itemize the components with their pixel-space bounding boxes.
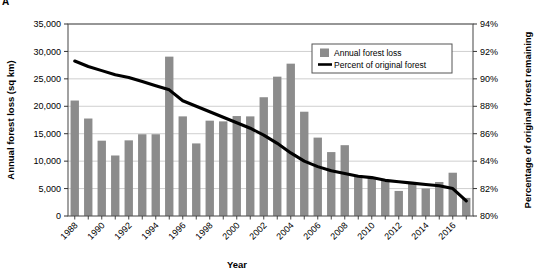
- bar: [84, 119, 92, 216]
- bar: [368, 178, 376, 216]
- bar: [179, 116, 187, 216]
- x-tick-label: 1992: [112, 220, 133, 241]
- bar: [125, 140, 133, 216]
- y2-tick-label: 80%: [480, 211, 498, 221]
- x-tick-label: 1990: [85, 220, 106, 241]
- x-tick-label: 1998: [193, 220, 214, 241]
- x-axis-title: Year: [227, 259, 247, 270]
- x-tick-label: 2000: [220, 220, 241, 241]
- x-tick-label: 2008: [328, 220, 349, 241]
- bar: [449, 173, 457, 216]
- legend-label-bar: Annual forest loss: [334, 48, 402, 58]
- y2-tick-label: 86%: [480, 129, 498, 139]
- bar: [260, 97, 268, 216]
- y-tick-label: 0: [56, 211, 61, 221]
- x-tick-label: 2012: [382, 220, 403, 241]
- x-tick-label: 2016: [436, 220, 457, 241]
- legend-label-line: Percent of original forest: [334, 60, 427, 70]
- chart-figure: A 05,00010,00015,00020,00025,00030,00035…: [0, 0, 540, 277]
- y2-tick-label: 90%: [480, 74, 498, 84]
- x-tick-label: 2004: [274, 220, 295, 241]
- bar: [287, 64, 295, 216]
- bar: [138, 134, 146, 216]
- y-tick-label: 35,000: [33, 19, 61, 29]
- x-tick-label: 2006: [301, 220, 322, 241]
- bar: [111, 155, 119, 216]
- bar: [314, 138, 322, 216]
- forest-loss-chart: 05,00010,00015,00020,00025,00030,00035,0…: [0, 0, 540, 277]
- y-tick-label: 30,000: [33, 47, 61, 57]
- x-tick-label: 1996: [166, 220, 187, 241]
- x-tick-label: 2014: [409, 220, 430, 241]
- y2-tick-label: 88%: [480, 101, 498, 111]
- bar: [381, 181, 389, 216]
- y-tick-label: 25,000: [33, 74, 61, 84]
- bar: [233, 116, 241, 216]
- bar: [206, 121, 214, 216]
- bar: [71, 101, 79, 216]
- x-tick-label: 2010: [355, 220, 376, 241]
- y-axis-title: Annual forest loss (sq km): [5, 60, 16, 179]
- y2-tick-label: 84%: [480, 156, 498, 166]
- y-axis-ticks: 05,00010,00015,00020,00025,00030,00035,0…: [33, 19, 68, 221]
- bar: [219, 121, 227, 216]
- y-tick-label: 10,000: [33, 156, 61, 166]
- legend-swatch-bar: [320, 49, 329, 58]
- y2-tick-label: 94%: [480, 19, 498, 29]
- x-tick-label: 1994: [139, 220, 160, 241]
- chart-legend: Annual forest loss Percent of original f…: [312, 44, 452, 73]
- y2-tick-label: 82%: [480, 184, 498, 194]
- y2-tick-label: 92%: [480, 47, 498, 57]
- bar: [165, 57, 173, 216]
- bar: [395, 191, 403, 216]
- bar: [422, 189, 430, 216]
- x-tick-label: 2002: [247, 220, 268, 241]
- y2-axis-title: Percentage of original forest remaining: [522, 31, 533, 208]
- bar: [354, 175, 362, 216]
- bar: [152, 134, 160, 216]
- y2-axis-ticks: 80%82%84%86%88%90%92%94%: [473, 19, 498, 221]
- y-tick-label: 5,000: [38, 184, 61, 194]
- bar: [408, 184, 416, 216]
- x-axis-tick-labels: 1988199019921994199619982000200220042006…: [58, 220, 457, 241]
- y-tick-label: 20,000: [33, 101, 61, 111]
- bar: [327, 152, 335, 216]
- y-tick-label: 15,000: [33, 129, 61, 139]
- bar: [341, 145, 349, 216]
- panel-label: A: [2, 0, 9, 7]
- x-tick-label: 1988: [58, 220, 79, 241]
- bar: [192, 143, 200, 216]
- bar: [98, 141, 106, 216]
